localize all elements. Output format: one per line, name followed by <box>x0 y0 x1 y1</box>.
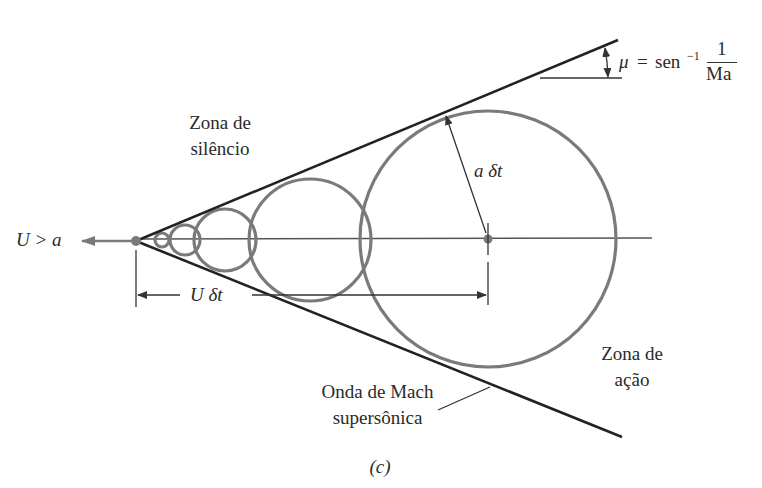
distance-label: U δt <box>190 284 223 306</box>
inverse-exponent: −1 <box>687 45 700 67</box>
axis-line <box>136 238 652 239</box>
mach-cone-diagram: U > a Zona de silêncio Zona de ação Onda… <box>0 0 762 488</box>
mu-symbol: μ <box>619 51 629 73</box>
mach-wave-line1: Onda de Mach <box>310 381 445 403</box>
velocity-label: U > a <box>16 229 62 251</box>
mach-wave-label: Onda de Mach supersônica <box>310 381 445 429</box>
angle-arc-arrow-up <box>605 48 607 62</box>
wave-circle-3 <box>194 209 256 271</box>
silence-zone-line1: Zona de <box>170 112 270 134</box>
wave-circle-5 <box>155 233 169 247</box>
action-zone-line1: Zona de <box>587 343 677 365</box>
equals-sign: = <box>637 51 648 73</box>
angle-arc-arrow-down <box>607 62 608 77</box>
mach-wave-line2: supersônica <box>310 407 445 429</box>
wave-circle-2 <box>249 179 371 301</box>
fraction-numerator: 1 <box>717 38 727 60</box>
source-point <box>131 236 141 246</box>
figure-caption: (c) <box>360 456 400 478</box>
radius-label: a δt <box>474 160 502 182</box>
mach-wave-leader <box>438 387 490 410</box>
silence-zone-line2: silêncio <box>170 138 270 160</box>
silence-zone-label: Zona de silêncio <box>170 112 270 160</box>
fraction-denominator: Ma <box>706 63 731 85</box>
action-zone-line2: ação <box>587 369 677 391</box>
sen-func: sen <box>655 51 680 73</box>
action-zone-label: Zona de ação <box>587 343 677 391</box>
